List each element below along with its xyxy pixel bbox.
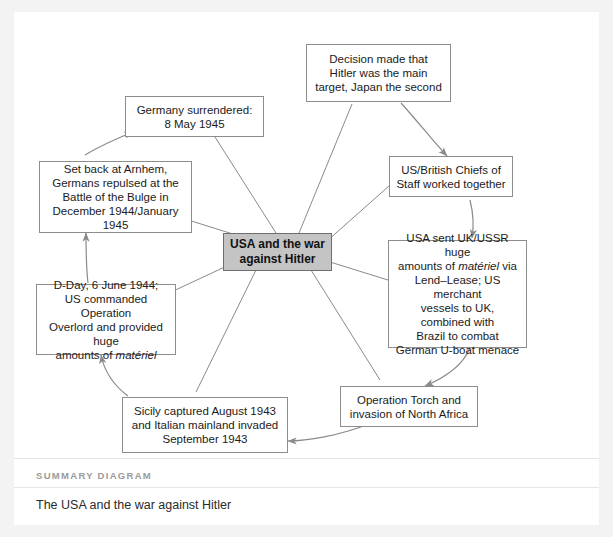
node-lendlease-text: USA sent UK/USSR hugeamounts of matériel… [395,231,520,357]
arrow-decision-to-chiefs [401,103,447,156]
page-background: Decision made thatHitler was the maintar… [0,0,613,537]
node-sicily[interactable]: Sicily captured August 1943and Italian m… [122,397,288,453]
node-decision[interactable]: Decision made thatHitler was the maintar… [306,44,451,102]
node-surrender[interactable]: Germany surrendered:8 May 1945 [125,96,264,137]
node-chiefs-text: US/British Chiefs ofStaff worked togethe… [396,163,506,191]
node-dday[interactable]: D-Day, 6 June 1944;US commanded Operatio… [36,284,176,355]
arrow-dday-to-arnhem [86,233,88,283]
node-center-text: USA and the waragainst Hitler [230,237,325,267]
summary-diagram-kicker: SUMMARY DIAGRAM [36,470,152,481]
node-chiefs[interactable]: US/British Chiefs ofStaff worked togethe… [389,156,513,197]
node-arnhem-text: Set back at Arnhem,Germans repulsed at t… [46,162,185,232]
node-sicily-text: Sicily captured August 1943and Italian m… [129,404,281,446]
node-torch[interactable]: Operation Torch andinvasion of North Afr… [340,386,478,427]
footer-divider [14,458,599,459]
diagram-caption: The USA and the war against Hitler [36,498,231,512]
node-lendlease[interactable]: USA sent UK/USSR hugeamounts of matériel… [388,240,527,348]
node-center[interactable]: USA and the waragainst Hitler [223,233,332,271]
caption-rule [14,487,599,488]
node-torch-text: Operation Torch andinvasion of North Afr… [347,393,471,421]
node-dday-text: D-Day, 6 June 1944;US commanded Operatio… [43,278,169,362]
node-arnhem[interactable]: Set back at Arnhem,Germans repulsed at t… [39,161,192,233]
node-surrender-text: Germany surrendered:8 May 1945 [132,103,257,131]
node-decision-text: Decision made thatHitler was the maintar… [313,52,444,94]
